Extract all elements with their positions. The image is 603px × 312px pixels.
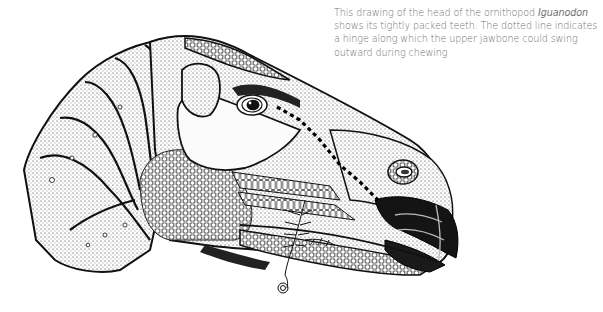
eye-icon <box>237 95 267 115</box>
temporal-lobe <box>182 64 220 117</box>
caption-species: Iguanodon <box>538 7 588 18</box>
caption-text-1: This drawing of the head of the ornithop… <box>334 7 538 18</box>
nostril-icon <box>388 160 418 184</box>
figure-caption: This drawing of the head of the ornithop… <box>334 6 602 59</box>
caption-text-2: shows its tightly packed teeth. The dott… <box>334 20 597 57</box>
